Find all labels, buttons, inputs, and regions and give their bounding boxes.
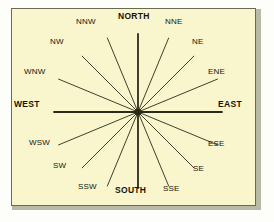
- compass-label-se: SE: [193, 165, 204, 173]
- compass-label-nne: NNE: [165, 18, 183, 26]
- compass-label-ene: ENE: [208, 68, 225, 76]
- compass-center-marker: [135, 109, 141, 115]
- compass-ray-se: [138, 112, 194, 168]
- compass-ray-nw: [82, 56, 138, 112]
- compass-ray-sw: [82, 112, 138, 168]
- compass-label-ne: NE: [192, 38, 204, 46]
- compass-ray-ne: [138, 56, 194, 112]
- compass-label-wnw: WNW: [24, 68, 45, 76]
- compass-label-nw: NW: [50, 38, 64, 46]
- compass-label-south: SOUTH: [115, 186, 146, 195]
- compass-label-sw: SW: [53, 162, 66, 170]
- compass-label-sse: SSE: [163, 185, 180, 193]
- compass-center-hub: [135, 109, 141, 115]
- compass-label-nnw: NNW: [76, 18, 96, 26]
- compass-label-ese: ESE: [208, 140, 225, 148]
- compass-label-east: EAST: [218, 100, 242, 109]
- compass-label-wsw: WSW: [29, 139, 50, 147]
- compass-label-north: NORTH: [118, 12, 150, 21]
- compass-label-ssw: SSW: [78, 183, 97, 191]
- compass-rose-figure: NORTHNNENEENEEASTESESESSESOUTHSSWSWWSWWE…: [0, 0, 274, 222]
- compass-label-west: WEST: [14, 100, 40, 109]
